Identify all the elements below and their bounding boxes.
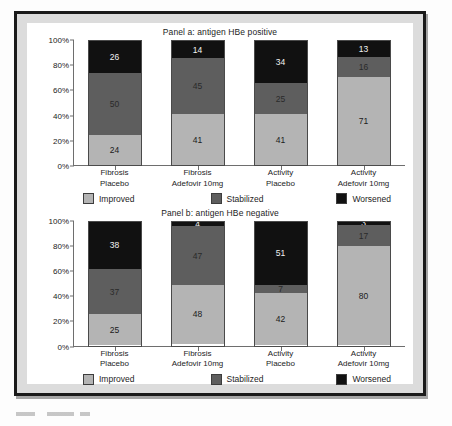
bar-segment-improved: 42 (255, 293, 307, 345)
bar-segment-stabilized: 47 (172, 226, 224, 284)
bar-segment-worsened: 34 (255, 41, 307, 83)
stacked-bar[interactable]: 13 16 71 (337, 40, 391, 166)
panel-a: Panel a: antigen HBe positive 100% 80% 6… (27, 23, 413, 204)
bar-group: 13 16 71 (322, 40, 405, 166)
panel-a-bars: 26 50 24 14 45 41 (73, 40, 405, 166)
bar-segment-worsened: 13 (338, 41, 390, 57)
stacked-bar[interactable]: 34 25 41 (254, 40, 308, 166)
bar-group: 26 50 24 (73, 40, 156, 166)
x-axis-label: Fibrosis Placebo (73, 349, 156, 370)
x-axis-label-line1: Fibrosis (73, 349, 156, 360)
x-axis-label: Activity Placebo (239, 349, 322, 370)
bar-segment-improved: 80 (338, 246, 390, 345)
panel-b-title: Panel b: antigen HBe negative (27, 208, 413, 218)
legend-label: Stabilized (227, 374, 264, 384)
stacked-bar[interactable]: 38 37 25 (88, 221, 142, 347)
bar-segment-improved: 41 (255, 114, 307, 165)
legend-label: Improved (99, 374, 134, 384)
bar-segment-stabilized: 50 (89, 73, 141, 135)
bar-segment-improved: 41 (172, 114, 224, 165)
bar-group: 51 7 42 (239, 221, 322, 347)
legend-swatch-worsened-icon (336, 374, 347, 385)
x-axis-label-line1: Fibrosis (156, 168, 239, 179)
bar-group: 14 45 41 (156, 40, 239, 166)
bar-segment-stabilized: 37 (89, 269, 141, 315)
figure-inner: Panel a: antigen HBe positive 100% 80% 6… (27, 23, 413, 384)
x-axis-label-line2: Adefovir 10mg (156, 359, 239, 370)
bar-segment-worsened: 51 (255, 222, 307, 285)
panel-a-x-labels: Fibrosis Placebo Fibrosis Adefovir 10mg … (73, 168, 405, 189)
bar-group: 34 25 41 (239, 40, 322, 166)
legend-item-improved: Improved (73, 193, 179, 204)
bar-group: 3 17 80 (322, 221, 405, 347)
stacked-bar[interactable]: 14 45 41 (171, 40, 225, 166)
x-axis-label-line1: Activity (322, 168, 405, 179)
x-axis-label-line1: Activity (322, 349, 405, 360)
bar-group: 38 37 25 (73, 221, 156, 347)
legend-item-stabilized: Stabilized (179, 374, 285, 385)
legend-swatch-improved-icon (83, 193, 94, 204)
x-axis-label-line1: Fibrosis (156, 349, 239, 360)
x-axis-label-line2: Placebo (239, 359, 322, 370)
legend-label: Improved (99, 194, 134, 204)
x-axis-label: Fibrosis Adefovir 10mg (156, 168, 239, 189)
bar-segment-improved: 71 (338, 77, 390, 165)
bar-segment-stabilized: 45 (172, 58, 224, 114)
legend-item-worsened: Worsened (285, 374, 405, 385)
bar-segment-improved: 25 (89, 314, 141, 345)
x-axis-label: Activity Adefovir 10mg (322, 168, 405, 189)
panel-b-x-labels: Fibrosis Placebo Fibrosis Adefovir 10mg … (73, 349, 405, 370)
legend-swatch-stabilized-icon (211, 193, 222, 204)
x-axis-label-line1: Activity (239, 349, 322, 360)
panel-b-bars: 38 37 25 4 47 48 (73, 221, 405, 347)
stacked-bar[interactable]: 26 50 24 (88, 40, 142, 166)
x-axis-label: Activity Placebo (239, 168, 322, 189)
bar-segment-improved: 48 (172, 285, 224, 345)
legend-label: Stabilized (227, 194, 264, 204)
legend-item-stabilized: Stabilized (179, 193, 285, 204)
caption-fragment (16, 412, 90, 416)
figure-frame: Panel a: antigen HBe positive 100% 80% 6… (14, 11, 426, 396)
panel-a-plot: 100% 80% 60% 40% 20% 0% 26 (73, 40, 405, 166)
bar-segment-worsened: 14 (172, 41, 224, 58)
stacked-bar[interactable]: 4 47 48 (171, 221, 225, 347)
legend-item-improved: Improved (73, 374, 179, 385)
panel-a-legend: Improved Stabilized Worsened (73, 193, 405, 204)
bar-segment-stabilized: 7 (255, 285, 307, 294)
x-axis-label-line2: Adefovir 10mg (322, 179, 405, 190)
legend-label: Worsened (352, 374, 391, 384)
legend-swatch-stabilized-icon (211, 374, 222, 385)
x-axis-label-line2: Placebo (73, 359, 156, 370)
x-axis-label: Fibrosis Adefovir 10mg (156, 349, 239, 370)
stacked-bar[interactable]: 3 17 80 (337, 221, 391, 347)
x-axis-label-line2: Adefovir 10mg (156, 179, 239, 190)
legend-label: Worsened (352, 194, 391, 204)
bar-segment-stabilized: 17 (338, 225, 390, 246)
x-axis-label-line2: Placebo (73, 179, 156, 190)
x-axis-label: Fibrosis Placebo (73, 168, 156, 189)
bar-segment-improved: 24 (89, 135, 141, 165)
x-axis-label-line1: Fibrosis (73, 168, 156, 179)
panel-b: Panel b: antigen HBe negative 100% 80% 6… (27, 204, 413, 385)
bar-segment-stabilized: 25 (255, 83, 307, 114)
panel-a-title: Panel a: antigen HBe positive (27, 27, 413, 37)
bar-segment-worsened: 38 (89, 222, 141, 269)
bar-group: 4 47 48 (156, 221, 239, 347)
figure-page: Panel a: antigen HBe positive 100% 80% 6… (0, 0, 452, 426)
x-axis-label-line2: Placebo (239, 179, 322, 190)
stacked-bar[interactable]: 51 7 42 (254, 221, 308, 347)
x-axis-label-line1: Activity (239, 168, 322, 179)
x-axis-label-line2: Adefovir 10mg (322, 359, 405, 370)
panel-b-plot: 100% 80% 60% 40% 20% 0% 38 (73, 221, 405, 347)
bar-segment-stabilized: 16 (338, 57, 390, 77)
legend-swatch-improved-icon (83, 374, 94, 385)
legend-item-worsened: Worsened (285, 193, 405, 204)
bar-segment-worsened: 26 (89, 41, 141, 73)
x-axis-label: Activity Adefovir 10mg (322, 349, 405, 370)
legend-swatch-worsened-icon (336, 193, 347, 204)
panel-b-legend: Improved Stabilized Worsened (73, 374, 405, 385)
